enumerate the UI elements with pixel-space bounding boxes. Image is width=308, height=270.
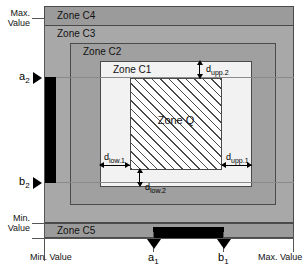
dimension-arrow-d-upp-2-bottom: [197, 74, 203, 79]
marker-label-a2: a2: [19, 70, 30, 85]
dimension-arrow-d-low-1-right: [125, 162, 130, 168]
axis-label-min-value-bottom: Min. Value: [30, 252, 72, 262]
interval-bar-vertical-a2-b2: [45, 77, 56, 183]
zone-c2-label: Zone C2: [83, 46, 121, 58]
zone-c3-label: Zone C3: [57, 28, 95, 40]
axis-label-min-value-left: Min. Value: [3, 213, 30, 233]
zone-diagram: Zone C4 Zone C3 Zone C2 Zone C1 Zone C5 …: [0, 0, 308, 270]
axis-label-max-value-bottom: Max. Value: [258, 252, 302, 262]
axis-horizontal-line: [32, 238, 294, 239]
marker-triangle-a2: [33, 72, 42, 84]
marker-label-b1: b1: [218, 251, 229, 266]
axis-tick-max-value-left: [32, 18, 45, 19]
zone-c1-label: Zone C1: [113, 64, 151, 76]
marker-triangle-b2: [33, 177, 42, 189]
dimension-label-d-upp-1: dupp.1: [226, 152, 249, 164]
marker-triangle-b1: [217, 239, 231, 249]
dimension-arrow-d-low-2-bottom: [137, 182, 143, 187]
guide-line-a2: [44, 77, 294, 78]
zone-q-label: Zone Q: [130, 114, 222, 126]
dimension-label-d-low-2: dlow.2: [145, 182, 166, 194]
dimension-label-d-upp-2: dupp.2: [206, 64, 229, 76]
axis-vertical-line: [44, 18, 45, 261]
zone-c4-label: Zone C4: [57, 10, 95, 22]
marker-triangle-a1: [147, 239, 161, 249]
axis-label-max-value-left: Max. Value: [3, 8, 30, 28]
axis-tick-min-value-left: [32, 223, 45, 224]
dimension-arrow-d-low-2-top: [137, 168, 143, 173]
interval-bar-horizontal-a1-b1: [153, 227, 224, 238]
guide-line-b2: [44, 182, 294, 183]
dimension-label-d-low-1: dlow.1: [104, 152, 125, 164]
dimension-arrow-d-upp-2-top: [197, 60, 203, 65]
zone-c5-label: Zone C5: [57, 225, 95, 237]
marker-label-a1: a1: [148, 251, 159, 266]
axis-tick-max-value-bottom: [293, 232, 294, 252]
marker-label-b2: b2: [19, 175, 30, 190]
